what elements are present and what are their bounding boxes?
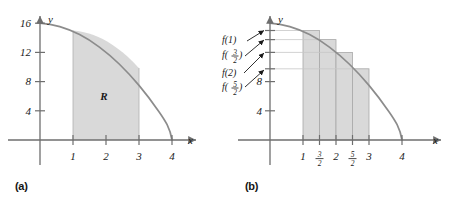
- svg-text:2: 2: [233, 88, 237, 97]
- y-tick-label-a-4: 4: [26, 105, 32, 117]
- y-tick-label-a-16: 16: [20, 17, 32, 29]
- rect-b-2: [320, 40, 337, 140]
- fn-label-f1: f(1): [222, 34, 237, 46]
- x-tick-label-b-4: 4: [399, 150, 405, 162]
- x-axis-label-b: x: [432, 134, 438, 146]
- region-label-R: R: [99, 90, 107, 102]
- figure-canvas: y x 4 8 12 16 1 2 3 4 R: [0, 0, 473, 204]
- x-tick-label-a-4: 4: [169, 150, 175, 162]
- svg-text:f(: f(: [222, 49, 229, 61]
- y-tick-label-b-4: 4: [257, 105, 263, 117]
- x-tick-label-a-2: 2: [103, 150, 109, 162]
- svg-text:2: 2: [351, 159, 355, 168]
- y-tick-label-b-8: 8: [257, 75, 263, 87]
- panel-caption-b: (b): [245, 180, 258, 192]
- rect-b-4: [353, 69, 370, 140]
- x-tick-label-b-2: 2: [333, 150, 339, 162]
- svg-text:f(: f(: [222, 81, 229, 93]
- svg-text:): ): [238, 81, 243, 93]
- svg-text:): ): [238, 49, 243, 61]
- arrow-f2: [244, 53, 264, 73]
- fn-label-f2: f(2): [222, 67, 237, 79]
- fn-label-f32: f( 3 2 ): [222, 48, 243, 66]
- arrow-f32: [245, 40, 264, 56]
- svg-text:2: 2: [318, 159, 322, 168]
- y-axis-label-a: y: [47, 13, 53, 25]
- x-tick-label-b-5-over-2: 5 2: [349, 150, 357, 168]
- y-axis-label-b: y: [277, 13, 283, 25]
- x-tick-label-b-1: 1: [300, 150, 306, 162]
- svg-text:2: 2: [233, 56, 237, 65]
- svg-text:3: 3: [317, 150, 322, 159]
- panel-b: y x 4 8 1 3 2 2 5 2 3 4: [222, 13, 441, 168]
- svg-text:5: 5: [351, 150, 355, 159]
- panel-caption-a: (a): [15, 180, 28, 192]
- panel-a: y x 4 8 12 16 1 2 3 4 R: [8, 13, 196, 165]
- x-axis-label-a: x: [187, 134, 193, 146]
- x-tick-label-a-1: 1: [70, 150, 76, 162]
- rect-b-1: [303, 31, 320, 141]
- fn-label-f52: f( 5 2 ): [222, 80, 243, 98]
- x-tick-label-a-3: 3: [135, 150, 142, 162]
- x-tick-label-b-3: 3: [365, 150, 372, 162]
- x-tick-label-b-3-over-2: 3 2: [316, 150, 324, 168]
- y-tick-label-a-12: 12: [20, 46, 32, 58]
- region-R-fill: [73, 31, 139, 141]
- y-tick-label-a-8: 8: [26, 75, 32, 87]
- arrow-f1: [247, 31, 264, 42]
